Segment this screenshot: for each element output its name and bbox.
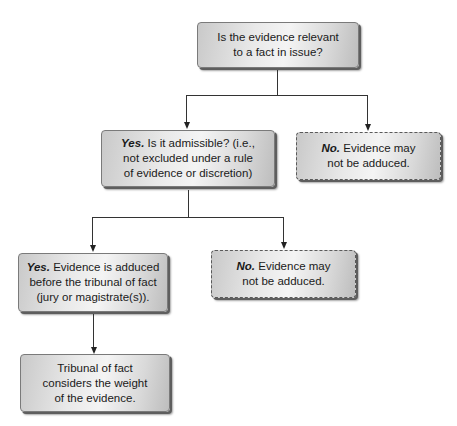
node-text: Yes. Is it admissible? (i.e., not exclud… (121, 136, 255, 181)
node-evidence-adduced: Yes. Evidence is adduced before the trib… (18, 253, 168, 312)
arrow-down-icon (90, 245, 96, 252)
connector-line (367, 95, 368, 126)
connector-line (277, 70, 278, 95)
node-text: No. Evidence may not be adduced. (237, 259, 331, 289)
arrow-down-icon (281, 242, 287, 249)
arrow-down-icon (365, 124, 371, 131)
node-text: Is the evidence relevant to a fact in is… (217, 30, 338, 60)
connector-line (283, 217, 284, 244)
connector-line (186, 95, 368, 96)
node-not-admissible: No. Evidence may not be adduced. (211, 250, 356, 298)
node-admissibility-question: Yes. Is it admissible? (i.e., not exclud… (101, 130, 275, 187)
connector-line (188, 190, 189, 217)
node-text: Yes. Evidence is adduced before the trib… (27, 260, 160, 305)
arrow-down-icon (184, 122, 190, 129)
node-weigh-evidence: Tribunal of fact considers the weight of… (20, 354, 170, 412)
arrow-down-icon (91, 347, 97, 354)
node-text: Tribunal of fact considers the weight of… (43, 361, 148, 406)
connector-line (93, 314, 94, 349)
connector-line (186, 95, 187, 124)
node-not-relevant: No. Evidence may not be adduced. (296, 132, 441, 180)
node-text: No. Evidence may not be adduced. (322, 141, 416, 171)
connector-line (92, 217, 284, 218)
connector-line (92, 217, 93, 247)
node-relevance-question: Is the evidence relevant to a fact in is… (197, 22, 359, 68)
